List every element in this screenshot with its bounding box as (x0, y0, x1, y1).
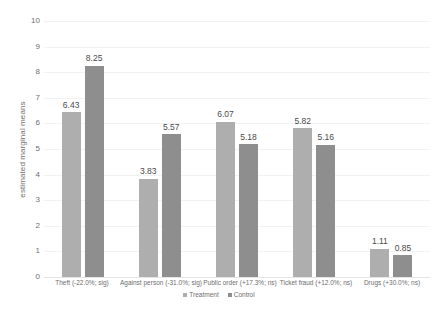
bar-value-label: 5.57 (163, 123, 180, 132)
bar-group: 5.825.16 (276, 21, 353, 277)
bar[interactable] (370, 249, 389, 277)
y-tick-label: 7 (6, 94, 40, 102)
x-axis-labels: Theft (-22.0%; sig)Against person (-31.0… (44, 279, 430, 286)
x-tick-label: Drugs (+30.0%; ns) (354, 279, 430, 286)
bar-group: 6.075.18 (198, 21, 275, 277)
bar[interactable] (316, 145, 335, 277)
legend-label: Control (234, 292, 255, 299)
bar-groups: 6.438.253.835.576.075.185.825.161.110.85 (44, 21, 430, 277)
bar-slot: 8.25 (85, 21, 104, 277)
x-tick-label: Theft (-22.0%; sig) (44, 279, 120, 286)
bar-slot: 5.57 (162, 21, 181, 277)
legend-swatch-icon (228, 293, 232, 297)
bar-slot: 5.18 (239, 21, 258, 277)
bar-group: 1.110.85 (353, 21, 430, 277)
bar-value-label: 6.07 (217, 110, 234, 119)
bar-value-label: 3.83 (140, 167, 157, 176)
y-tick-label: 4 (6, 171, 40, 179)
y-tick-label: 10 (6, 17, 40, 25)
bar-slot: 6.07 (216, 21, 235, 277)
bar[interactable] (85, 66, 104, 277)
bar-value-label: 6.43 (63, 101, 80, 110)
bar-value-label: 5.82 (294, 117, 311, 126)
bar-slot: 6.43 (62, 21, 81, 277)
bar[interactable] (239, 144, 258, 277)
bar-slot: 0.85 (393, 21, 412, 277)
bar[interactable] (393, 255, 412, 277)
bar-value-label: 8.25 (86, 54, 103, 63)
bar-value-label: 0.85 (395, 244, 412, 253)
bar-slot: 5.16 (316, 21, 335, 277)
legend-swatch-icon (183, 293, 187, 297)
legend-label: Treatment (189, 292, 218, 299)
y-tick-label: 6 (6, 119, 40, 127)
bar-slot: 3.83 (139, 21, 158, 277)
x-tick-label: Public order (+17.3%; ns) (202, 279, 278, 286)
chart-legend: TreatmentControl (0, 292, 438, 299)
bar-value-label: 5.16 (317, 133, 334, 142)
bar-group: 6.438.25 (44, 21, 121, 277)
bar-value-label: 1.11 (372, 237, 388, 246)
y-tick-label: 2 (6, 222, 40, 230)
x-tick-label: Ticket fraud (+12.0%; ns) (278, 279, 354, 286)
y-tick-label: 0 (6, 273, 40, 281)
x-tick-label: Against person (-31.0%; sig) (120, 279, 202, 286)
legend-item[interactable]: Control (228, 292, 255, 299)
y-tick-label: 1 (6, 247, 40, 255)
y-tick-label: 9 (6, 43, 40, 51)
y-tick-label: 5 (6, 145, 40, 153)
bar[interactable] (139, 179, 158, 277)
y-axis-ticks: 109876543210 (0, 21, 40, 277)
bar-slot: 1.11 (370, 21, 389, 277)
y-tick-label: 3 (6, 196, 40, 204)
bar[interactable] (62, 112, 81, 277)
bar-group: 3.835.57 (121, 21, 198, 277)
bar[interactable] (162, 134, 181, 277)
legend-item[interactable]: Treatment (183, 292, 218, 299)
bar-chart: estimated marginal means 109876543210 6.… (0, 0, 438, 318)
gridline (44, 277, 430, 278)
bar[interactable] (216, 122, 235, 277)
bar-slot: 5.82 (293, 21, 312, 277)
bar-value-label: 5.18 (240, 133, 257, 142)
bar[interactable] (293, 128, 312, 277)
y-tick-label: 8 (6, 68, 40, 76)
